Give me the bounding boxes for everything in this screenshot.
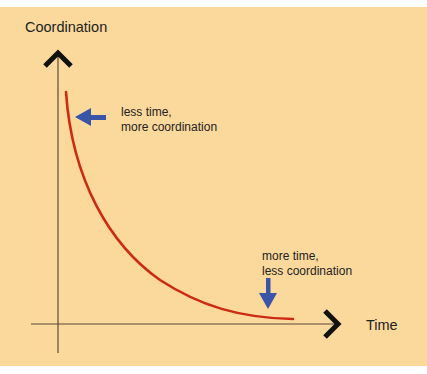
y-axis-label: Coordination — [25, 19, 107, 36]
diagram-canvas — [0, 0, 427, 374]
annotation-line: more coordination — [121, 120, 217, 135]
left-arrow-icon — [75, 108, 106, 126]
annotation-line: less time, — [121, 105, 217, 120]
annotation-less-time: less time, more coordination — [121, 105, 217, 135]
annotation-more-time: more time, less coordination — [262, 249, 352, 279]
annotation-line: more time, — [262, 249, 352, 264]
annotation-line: less coordination — [262, 264, 352, 279]
x-axis-label: Time — [366, 317, 398, 334]
down-arrow-icon — [259, 278, 277, 309]
